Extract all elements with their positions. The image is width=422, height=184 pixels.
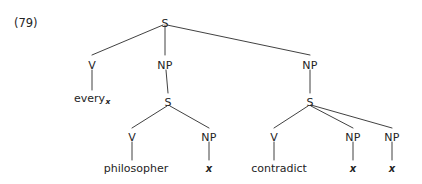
tree-node-s-right: S bbox=[306, 97, 313, 108]
tree-edge bbox=[311, 106, 353, 128]
tree-edge bbox=[274, 106, 308, 128]
tree-node-np-mid: NP bbox=[157, 60, 172, 71]
tree-leaf-leaf-x-mid: x bbox=[206, 163, 212, 174]
tree-leaf-leaf-contradict: contradict bbox=[251, 163, 307, 174]
tree-node-np-x-r2: NP bbox=[384, 132, 399, 143]
tree-node-v-philosopher: V bbox=[128, 132, 136, 143]
tree-node-s-mid: S bbox=[164, 97, 171, 108]
tree-node-s-root: S bbox=[161, 18, 168, 29]
tree-edge bbox=[92, 25, 163, 55]
tree-leaf-leaf-philosopher: philosopher bbox=[104, 163, 169, 174]
tree-edge bbox=[167, 25, 310, 55]
tree-leaf-leaf-every: everyx bbox=[74, 93, 110, 105]
syntax-tree-figure: (79) SVNPNPSSVNPVNPNP everyxphilosopherx… bbox=[0, 0, 422, 184]
tree-edge bbox=[311, 105, 392, 128]
example-number-label: (79) bbox=[14, 17, 38, 29]
tree-node-np-right: NP bbox=[302, 60, 317, 71]
tree-branch-lines bbox=[0, 0, 422, 184]
tree-node-v-contradict: V bbox=[270, 132, 278, 143]
tree-node-np-x-mid: NP bbox=[201, 132, 216, 143]
tree-edge bbox=[170, 106, 209, 128]
tree-edge bbox=[132, 106, 167, 128]
tree-node-np-x-r1: NP bbox=[345, 132, 360, 143]
tree-leaf-leaf-x-r2: x bbox=[389, 163, 395, 174]
leaf-subscript: x bbox=[105, 97, 110, 106]
tree-node-v-every: V bbox=[88, 60, 96, 71]
tree-edge bbox=[166, 70, 168, 93]
tree-leaf-leaf-x-r1: x bbox=[350, 163, 356, 174]
